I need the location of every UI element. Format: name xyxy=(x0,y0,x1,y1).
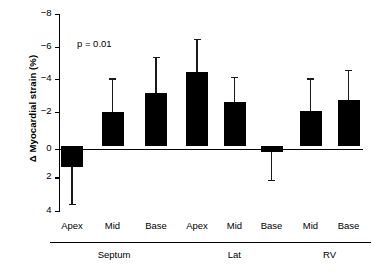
group-rule-2 xyxy=(175,242,294,243)
group-rule-3 xyxy=(289,242,371,243)
y-tick-6: 4 xyxy=(55,211,60,212)
y-tick-label-4: 0 xyxy=(46,142,51,153)
chart-figure: Δ Myocardial strain (%) −8 −6 −4 −2 0 2 … xyxy=(0,0,372,277)
x-axis-label-8: Base xyxy=(319,220,372,231)
bar-5 xyxy=(224,102,246,146)
y-axis-line xyxy=(59,14,60,212)
bar-4 xyxy=(186,72,208,146)
y-tick-0: −8 xyxy=(55,14,60,15)
error-bar-stem-3 xyxy=(155,57,156,93)
error-bar-stem-2 xyxy=(112,78,113,112)
y-tick-label-0: −8 xyxy=(41,7,52,18)
error-bar-cap-8 xyxy=(345,70,352,71)
error-bar-stem-5 xyxy=(234,77,235,103)
error-bar-cap-5 xyxy=(231,77,238,78)
y-tick-label-1: −6 xyxy=(41,40,52,51)
error-bar-cap-7 xyxy=(307,78,314,79)
group-label-rv: RV xyxy=(285,249,372,260)
y-tick-1: −6 xyxy=(55,47,60,48)
error-bar-stem-6 xyxy=(271,152,272,180)
group-label-lat: Lat xyxy=(189,249,279,260)
bar-7 xyxy=(300,111,322,146)
error-bar-stem-7 xyxy=(310,78,311,110)
y-tick-3: −2 xyxy=(55,112,60,113)
y-tick-label-5: 2 xyxy=(46,170,51,181)
bar-1 xyxy=(61,146,83,167)
p-value-annotation: p = 0.01 xyxy=(77,38,112,49)
error-bar-cap-3 xyxy=(153,57,160,58)
y-tick-4: 0 xyxy=(55,149,60,150)
error-bar-cap-6 xyxy=(268,180,275,181)
group-rule-1 xyxy=(50,242,178,243)
y-tick-label-3: −2 xyxy=(41,105,52,116)
group-label-septum: Septum xyxy=(69,249,159,260)
bar-8 xyxy=(338,100,360,146)
y-tick-2: −4 xyxy=(55,79,60,80)
y-axis-title: Δ Myocardial strain (%) xyxy=(27,14,38,204)
bar-3 xyxy=(145,93,167,146)
y-tick-5: 2 xyxy=(55,177,60,178)
bar-2 xyxy=(102,112,124,146)
error-bar-stem-1 xyxy=(71,167,72,203)
y-tick-label-2: −4 xyxy=(41,72,52,83)
error-bar-stem-8 xyxy=(348,70,349,100)
y-tick-label-6: 4 xyxy=(46,204,51,215)
error-bar-cap-2 xyxy=(109,78,116,79)
error-bar-cap-4 xyxy=(194,39,201,40)
error-bar-stem-4 xyxy=(196,39,197,72)
zero-baseline xyxy=(59,149,363,150)
error-bar-cap-1 xyxy=(69,204,76,205)
